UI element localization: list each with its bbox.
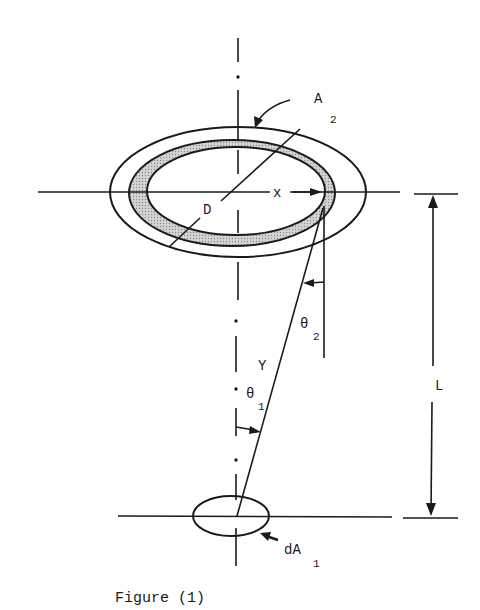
inner-ellipse	[147, 147, 325, 235]
theta2-arrow	[303, 279, 324, 287]
figure-caption: Figure (1)	[115, 590, 205, 607]
a2-leader-arrow	[258, 100, 290, 121]
theta1-arrow	[236, 426, 261, 434]
l-dimension	[431, 198, 433, 514]
d-label: D	[203, 202, 211, 218]
a2-subscript: 2	[330, 114, 337, 126]
view-factor-diagram: x D A 2 θ 2 Y θ 1 L	[0, 0, 480, 610]
l-label: L	[435, 378, 443, 394]
theta2-label: θ	[300, 316, 308, 332]
theta1-subscript: 1	[258, 401, 265, 413]
x-label: x	[273, 185, 281, 201]
a2-label: A	[314, 91, 323, 107]
da1-leader-arrow	[260, 532, 278, 541]
vertical-centerline	[235, 38, 239, 566]
lower-plane-line	[118, 516, 458, 518]
da1-subscript: 1	[313, 558, 320, 570]
da1-label: dA	[284, 542, 301, 558]
theta2-subscript: 2	[313, 331, 320, 343]
theta1-label: θ	[246, 386, 254, 402]
y-label: Y	[258, 358, 267, 374]
